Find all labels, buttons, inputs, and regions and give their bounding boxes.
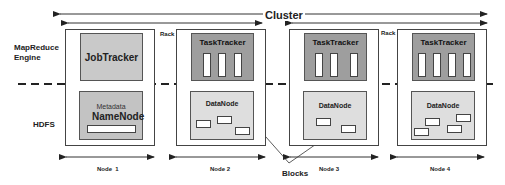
- data-block: [414, 128, 429, 136]
- task-slot: [315, 53, 323, 77]
- metadata-block: [87, 125, 136, 133]
- task-slot: [350, 53, 358, 77]
- data-block: [456, 114, 471, 122]
- task-slot: [218, 53, 226, 77]
- task-slot: [418, 53, 426, 77]
- cluster-label: Cluster: [263, 9, 305, 21]
- task-slot: [203, 53, 211, 77]
- node-4: TaskTracker DataNode: [397, 29, 487, 146]
- jobtracker-box: JobTracker: [80, 33, 143, 81]
- tasktracker-label-4: TaskTracker: [413, 38, 474, 47]
- node-4-label: Node 4: [430, 166, 450, 172]
- rack-label-1: Rack: [160, 31, 174, 37]
- data-block: [217, 116, 232, 124]
- node-3: TaskTracker DataNode: [289, 29, 379, 146]
- datanode-box-2: DataNode: [190, 91, 254, 140]
- datanode-box-4: DataNode: [411, 91, 475, 140]
- tasktracker-box-2: TaskTracker: [191, 33, 254, 81]
- data-block: [425, 118, 440, 126]
- tasktracker-box-4: TaskTracker: [412, 33, 475, 81]
- jobtracker-label: JobTracker: [81, 52, 142, 63]
- datanode-label-3: DataNode: [304, 102, 366, 109]
- mapreduce-layer-label: MapReduce Engine: [14, 43, 59, 63]
- rack-label-2: Rack: [381, 30, 395, 36]
- tasktracker-box-3: TaskTracker: [304, 33, 367, 81]
- node-1-label: Node 1: [97, 166, 119, 172]
- data-block: [235, 127, 250, 135]
- datanode-label-2: DataNode: [191, 100, 253, 107]
- task-slot: [433, 53, 441, 77]
- node-2: TaskTracker DataNode: [176, 29, 266, 146]
- datanode-box-3: DataNode: [303, 91, 367, 140]
- task-slot: [463, 53, 471, 77]
- metadata-label: Metadata: [80, 103, 142, 110]
- mapreduce-label-line1: MapReduce: [14, 43, 59, 53]
- blocks-label: Blocks: [282, 169, 308, 178]
- node-2-label: Node 2: [210, 166, 230, 172]
- namenode-label: NameNode: [92, 111, 142, 122]
- data-block: [341, 125, 356, 133]
- task-slot: [234, 53, 242, 77]
- node-3-label: Node 3: [319, 166, 339, 172]
- task-slot: [448, 53, 456, 77]
- data-block: [316, 118, 331, 126]
- data-block: [196, 120, 211, 128]
- tasktracker-label-2: TaskTracker: [192, 38, 253, 47]
- data-block: [447, 125, 462, 133]
- mapreduce-label-line2: Engine: [14, 53, 59, 63]
- hdfs-layer-label: HDFS: [33, 120, 55, 129]
- node-1: JobTracker Metadata NameNode: [65, 29, 155, 146]
- tasktracker-label-3: TaskTracker: [305, 38, 366, 47]
- task-slot: [330, 53, 338, 77]
- namenode-box: Metadata NameNode: [79, 91, 143, 140]
- datanode-label-4: DataNode: [412, 102, 474, 109]
